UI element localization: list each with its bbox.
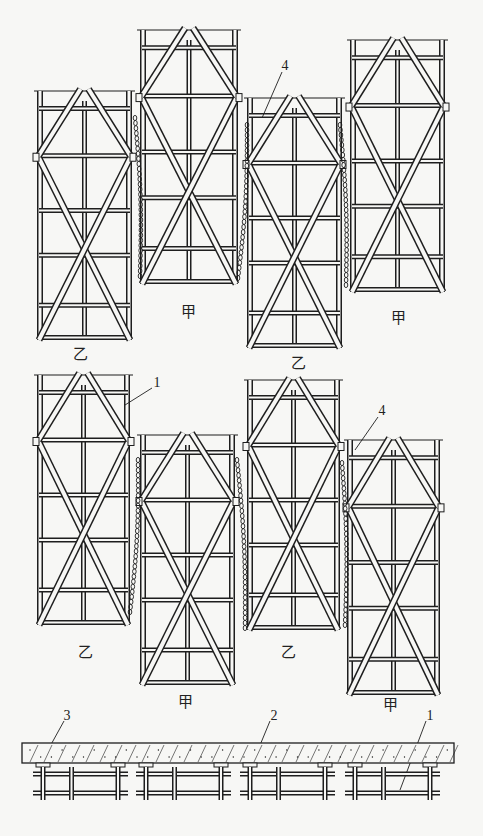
plan-frame-1 xyxy=(33,763,128,800)
plan-frame-2 xyxy=(136,763,231,800)
scaffold-frame-f8 xyxy=(343,438,444,695)
callout-number-3: 3 xyxy=(64,709,71,723)
floor-slab xyxy=(22,743,458,763)
plan-frame-3 xyxy=(240,763,335,800)
plan-frame-4 xyxy=(345,763,440,800)
chain-link-5 xyxy=(235,457,247,630)
frame-label-f2: 甲 xyxy=(181,305,196,320)
callout-number-1: 1 xyxy=(154,376,161,390)
scaffold-frame-f2 xyxy=(136,28,242,284)
callout-number-2: 2 xyxy=(271,709,278,723)
frame-label-f8: 甲 xyxy=(383,698,398,713)
scaffold-frame-f1 xyxy=(33,89,136,340)
scaffold-diagram: 乙甲乙甲乙甲乙甲414321 xyxy=(0,0,483,836)
frame-label-f7: 乙 xyxy=(281,645,296,660)
frame-label-f3: 乙 xyxy=(291,356,306,371)
scaffold-frame-f3 xyxy=(243,96,346,348)
chain-link-2 xyxy=(236,122,249,280)
callout-number-4: 4 xyxy=(282,59,289,73)
scaffold-frame-f5 xyxy=(33,373,134,625)
leader-line-2 xyxy=(355,417,378,450)
frame-label-f1: 乙 xyxy=(73,347,88,362)
frame-label-f6: 甲 xyxy=(178,695,193,710)
scaffold-frame-f7 xyxy=(243,378,344,630)
frame-label-f5: 乙 xyxy=(78,645,93,660)
scaffold-frame-f4 xyxy=(346,38,449,292)
callout-number-1: 1 xyxy=(427,709,434,723)
frame-label-f4: 甲 xyxy=(391,311,406,326)
callout-number-4: 4 xyxy=(379,404,386,418)
scaffold-frame-f6 xyxy=(136,433,239,685)
diagram-drawing xyxy=(0,0,483,836)
